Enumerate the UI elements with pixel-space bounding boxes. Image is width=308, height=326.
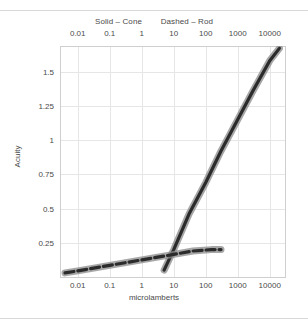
figure-container: Solid – Cone Dashed – Rod 0.010.11101001… (0, 0, 308, 326)
data-series (65, 48, 279, 273)
plot-area (0, 0, 308, 326)
series-halo-cone (164, 48, 279, 270)
